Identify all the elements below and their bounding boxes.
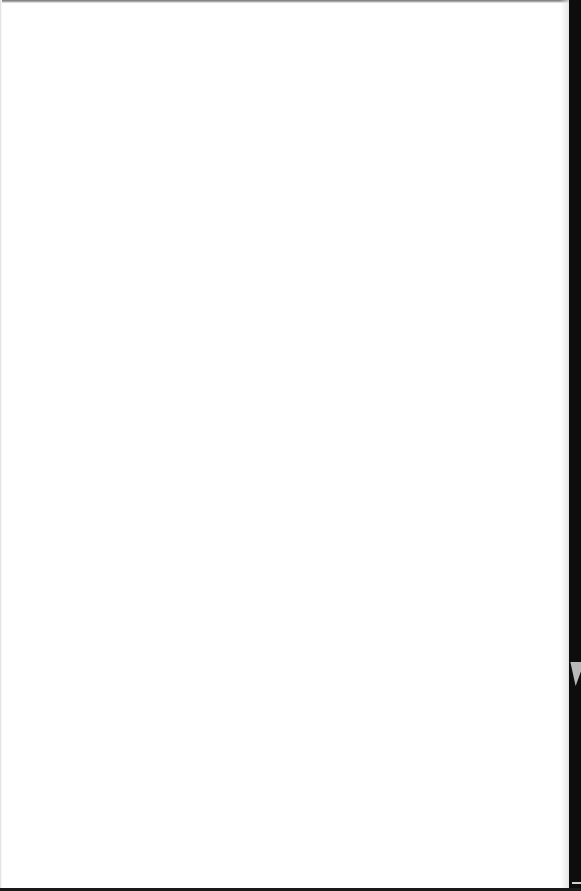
left-paper-edge [0, 0, 2, 888]
bottom-right-paper-tab [572, 882, 581, 884]
top-edge-shadow [0, 0, 569, 3]
page-content-area [40, 40, 529, 848]
blank-paper-sheet [0, 0, 569, 888]
right-paper-edge-shade [560, 0, 569, 888]
photo-scene [0, 0, 581, 891]
